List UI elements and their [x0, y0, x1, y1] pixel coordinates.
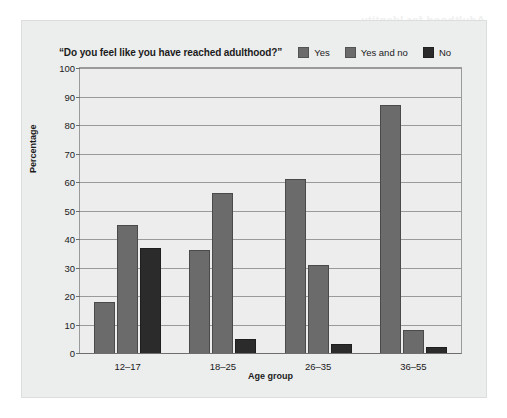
- legend-label-no: No: [439, 47, 451, 58]
- bar[interactable]: [212, 193, 233, 353]
- legend-item-yes-and-no[interactable]: Yes and no: [345, 47, 408, 58]
- legend-swatch-yes: [298, 47, 309, 58]
- bar[interactable]: [403, 330, 424, 353]
- y-axis-tick-label: 30: [64, 262, 75, 273]
- bar[interactable]: [331, 344, 352, 353]
- legend-item-yes[interactable]: Yes: [298, 47, 330, 58]
- legend-item-no[interactable]: No: [423, 47, 451, 58]
- y-axis-tick-label: 90: [64, 91, 75, 102]
- bar[interactable]: [94, 302, 115, 353]
- y-axis-tick-label: 100: [59, 63, 75, 74]
- bar-group: 36–55: [366, 68, 461, 353]
- y-axis-tick-label: 70: [64, 148, 75, 159]
- legend-label-yes: Yes: [314, 47, 330, 58]
- legend-label-yes-and-no: Yes and no: [361, 47, 408, 58]
- plot-area: 010203040506070809010012–1718–2526–3536–…: [79, 67, 462, 354]
- y-axis-tick-mark: [76, 353, 80, 354]
- y-axis-tick-label: 40: [64, 234, 75, 245]
- bar[interactable]: [426, 347, 447, 353]
- bar-group: 18–25: [175, 68, 270, 353]
- legend-swatch-yes-and-no: [345, 47, 356, 58]
- bar[interactable]: [308, 265, 329, 353]
- y-axis-tick-label: 0: [70, 348, 75, 359]
- chart-legend: “Do you feel like you have reached adult…: [22, 42, 488, 62]
- y-axis-tick-label: 50: [64, 205, 75, 216]
- chart-title: “Do you feel like you have reached adult…: [59, 47, 282, 58]
- bar-group: 12–17: [80, 68, 175, 353]
- y-axis-label: Percentage: [28, 124, 38, 173]
- bar[interactable]: [235, 339, 256, 353]
- bar[interactable]: [140, 248, 161, 353]
- bar[interactable]: [117, 225, 138, 353]
- bar-group: 26–35: [271, 68, 366, 353]
- y-axis-tick-label: 60: [64, 177, 75, 188]
- y-axis-tick-label: 80: [64, 120, 75, 131]
- x-axis-label: Age group: [79, 371, 462, 381]
- chart-panel: “Do you feel like you have reached adult…: [21, 20, 487, 398]
- bar[interactable]: [189, 250, 210, 353]
- y-axis-tick-label: 10: [64, 319, 75, 330]
- bar[interactable]: [285, 179, 306, 353]
- plot-wrapper: Percentage 010203040506070809010012–1718…: [22, 65, 488, 375]
- y-axis-tick-label: 20: [64, 291, 75, 302]
- bar[interactable]: [380, 105, 401, 353]
- legend-swatch-no: [423, 47, 434, 58]
- figure-canvas: Adulthood for Identity “Do you feel like…: [0, 0, 507, 418]
